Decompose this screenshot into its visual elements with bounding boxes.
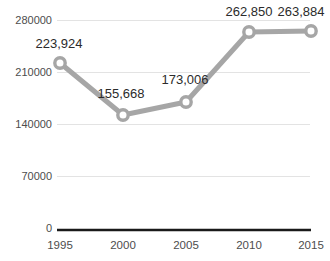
data-point-2010[interactable] (244, 27, 254, 37)
data-point-2005[interactable] (181, 97, 191, 107)
data-label-1995: 223,924 (14, 36, 104, 51)
y-axis-tick-210000: 210000 (0, 66, 52, 78)
data-label-2000: 155,668 (76, 86, 166, 101)
x-axis-tick-2010: 2010 (219, 239, 279, 251)
x-axis-tick-2000: 2000 (93, 239, 153, 251)
y-axis-tick-0: 0 (0, 222, 52, 234)
line-chart: 280000 210000 140000 70000 0 1995 2000 2… (0, 0, 330, 261)
x-axis-tick-2015: 2015 (281, 239, 330, 251)
y-axis-tick-280000: 280000 (0, 14, 52, 26)
y-axis-tick-140000: 140000 (0, 118, 52, 130)
x-axis-tick-1995: 1995 (30, 239, 90, 251)
data-label-2005: 173,006 (140, 72, 230, 87)
data-point-2015[interactable] (306, 26, 316, 36)
data-label-2015: 263,884 (256, 4, 330, 19)
y-axis-tick-70000: 70000 (0, 170, 52, 182)
x-axis-tick-2005: 2005 (156, 239, 216, 251)
data-point-1995[interactable] (55, 58, 65, 68)
data-point-2000[interactable] (118, 110, 128, 120)
